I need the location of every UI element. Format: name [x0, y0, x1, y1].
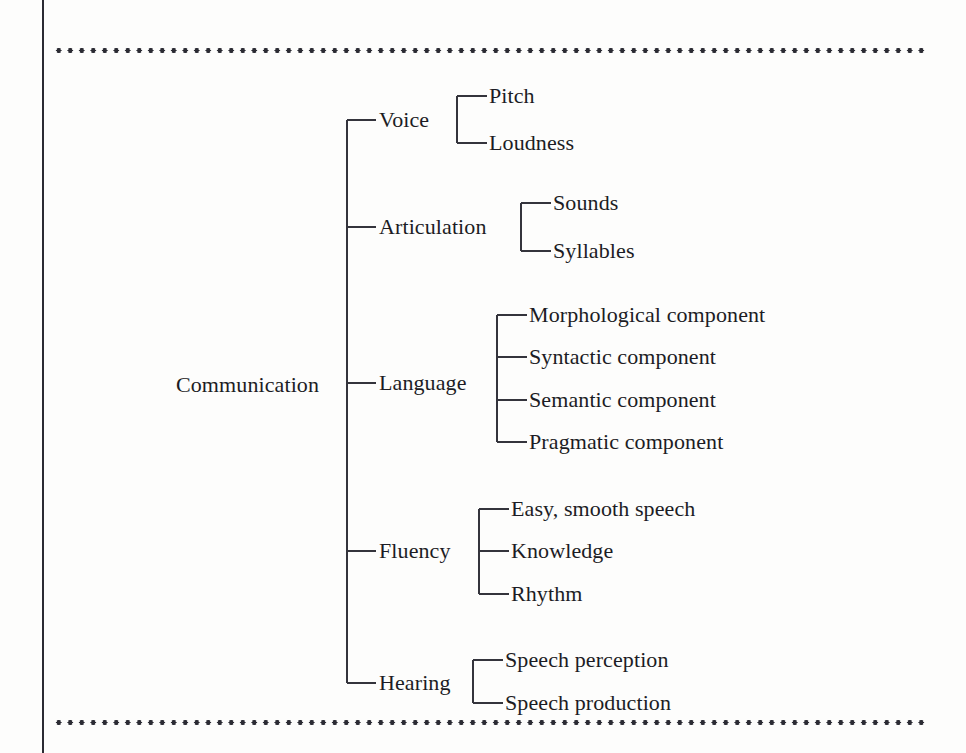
node-speech-perception: Speech perception — [505, 649, 669, 671]
node-hearing: Hearing — [379, 672, 451, 694]
dotted-rule-top — [53, 48, 926, 53]
node-semantic-component: Semantic component — [529, 389, 716, 411]
node-syntactic-component: Syntactic component — [529, 346, 716, 368]
figure-page: Communication Voice Articulation Languag… — [0, 0, 966, 753]
node-language: Language — [379, 372, 467, 394]
node-pitch: Pitch — [489, 85, 535, 107]
node-rhythm: Rhythm — [511, 583, 583, 605]
node-morphological-component: Morphological component — [529, 304, 765, 326]
page-gutter-rule — [42, 0, 44, 753]
tree-connector-lines — [0, 0, 966, 753]
node-knowledge: Knowledge — [511, 540, 613, 562]
node-pragmatic-component: Pragmatic component — [529, 431, 723, 453]
node-sounds: Sounds — [553, 192, 618, 214]
dotted-rule-bottom — [53, 720, 926, 725]
node-syllables: Syllables — [553, 240, 635, 262]
node-loudness: Loudness — [489, 132, 574, 154]
node-easy-smooth-speech: Easy, smooth speech — [511, 498, 695, 520]
node-fluency: Fluency — [379, 540, 451, 562]
node-voice: Voice — [379, 109, 429, 131]
node-articulation: Articulation — [379, 216, 487, 238]
node-speech-production: Speech production — [505, 692, 671, 714]
node-communication: Communication — [176, 374, 319, 396]
